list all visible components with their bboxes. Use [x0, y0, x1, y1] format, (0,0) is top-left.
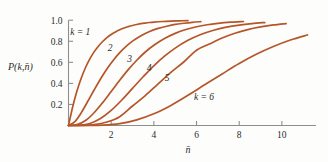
curve-label-k-6: k = 6	[194, 92, 214, 102]
curve-k-3	[69, 21, 244, 125]
curve-label-4: 4	[147, 63, 152, 73]
curve-label-k-1: k = 1	[70, 27, 90, 37]
poisson-cumulative-chart: 0.20.40.60.81.0246810 k = 12345k = 6 P(k…	[0, 0, 328, 162]
curve-label-5: 5	[165, 73, 170, 83]
y-tick-label-0.2: 0.2	[51, 100, 63, 110]
y-tick-label-0.6: 0.6	[51, 58, 63, 68]
x-axis-label: n̄	[185, 144, 190, 155]
x-tick-label-10: 10	[277, 130, 287, 140]
x-tick-label-8: 8	[237, 130, 242, 140]
curve-k-5	[69, 24, 287, 126]
y-tick-label-0.8: 0.8	[51, 37, 63, 47]
x-tick-label-2: 2	[109, 130, 114, 140]
x-tick-label-4: 4	[151, 130, 156, 140]
x-tick-label-6: 6	[194, 130, 199, 140]
y-tick-label-0.4: 0.4	[51, 79, 63, 89]
axes-group	[69, 20, 317, 125]
curve-label-3: 3	[126, 54, 132, 64]
y-axis-label: P(k,n̄)	[7, 61, 33, 73]
figure-container: 0.20.40.60.81.0246810 k = 12345k = 6 P(k…	[0, 0, 328, 162]
data-curves-group	[69, 21, 308, 126]
tick-marks-group	[69, 20, 282, 125]
y-tick-label-1.0: 1.0	[51, 16, 63, 26]
curve-k-6	[69, 35, 308, 126]
curve-label-2: 2	[108, 43, 113, 53]
